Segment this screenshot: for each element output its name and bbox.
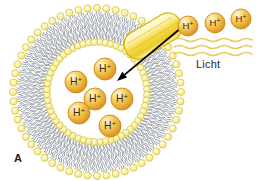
lipid-head-outer: [175, 107, 182, 114]
lipid-head-outer: [173, 116, 180, 123]
lipid-head-outer: [18, 125, 25, 132]
lipid-head-outer: [121, 168, 128, 175]
proton-inside: H+: [99, 115, 121, 137]
light-label: Licht: [196, 58, 220, 70]
lipid-head-outer: [121, 9, 128, 16]
lipid-head-outer: [84, 172, 91, 179]
lipid-head-outer: [75, 170, 82, 177]
protons-outside-vesicle: H+H+H+: [178, 9, 251, 36]
proton-inside: H+: [94, 58, 116, 80]
lipid-head-outer: [112, 7, 119, 14]
lipid-head-outer: [28, 141, 35, 148]
proton-inside: H+: [65, 71, 87, 93]
lipid-head-outer: [84, 5, 91, 12]
lipid-head-outer: [93, 4, 100, 11]
proton-inside: H+: [111, 88, 133, 110]
lipid-head-outer: [173, 61, 180, 68]
lipid-head-outer: [66, 9, 73, 16]
lipid-head-outer: [10, 98, 17, 105]
lipid-head-outer: [153, 148, 160, 155]
lipid-head-outer: [175, 70, 182, 77]
lipid-head-outer: [169, 125, 176, 132]
lipid-head-outer: [9, 88, 16, 95]
light-ray: [174, 39, 252, 42]
lipid-head-outer: [177, 88, 184, 95]
lipid-head-outer: [49, 160, 56, 167]
lipid-head-outer: [146, 154, 153, 161]
lipid-head-outer: [57, 164, 64, 171]
light-ray: [174, 53, 252, 56]
lipid-head-outer: [41, 23, 48, 30]
lipid-head-outer: [138, 160, 145, 167]
lipid-head-outer: [34, 29, 41, 36]
lipid-head-outer: [28, 36, 35, 43]
lipid-head-outer: [14, 61, 21, 68]
diagram-canvas: H+H+H+H+H+H+ H+H+H+: [0, 0, 263, 181]
lipid-head-outer: [57, 13, 64, 20]
lipid-head-outer: [66, 168, 73, 175]
lipid-head-outer: [103, 172, 110, 179]
lipid-head-outer: [138, 17, 145, 24]
lipid-head-outer: [10, 79, 17, 86]
lipid-head-outer: [22, 44, 29, 51]
lipid-head-outer: [130, 164, 137, 171]
lipid-head-outer: [112, 170, 119, 177]
light-ray: [174, 46, 252, 49]
lipid-head-outer: [165, 133, 172, 140]
lipid-head-inner: [91, 39, 98, 46]
lipid-head-outer: [12, 70, 19, 77]
lipid-head-outer: [93, 172, 100, 179]
lipid-head-outer: [18, 52, 25, 59]
proton-outside: H+: [178, 16, 198, 36]
figure-root: H+H+H+H+H+H+ H+H+H+ Licht A: [0, 0, 263, 181]
lipid-head-outer: [177, 98, 184, 105]
lipid-head-outer: [130, 13, 137, 20]
panel-label: A: [14, 152, 22, 164]
proton-outside: H+: [231, 9, 251, 29]
proton-outside: H+: [205, 13, 225, 33]
lipid-head-outer: [75, 7, 82, 14]
lipid-head-outer: [14, 116, 21, 123]
lipid-head-outer: [34, 148, 41, 155]
lipid-head-outer: [22, 133, 29, 140]
lipid-head-outer: [159, 141, 166, 148]
lipid-head-outer: [177, 79, 184, 86]
lipid-head-outer: [12, 107, 19, 114]
light-waves: [174, 39, 252, 56]
lipid-head-outer: [49, 17, 56, 24]
lipid-head-outer: [103, 5, 110, 12]
proton-inside: H+: [68, 102, 90, 124]
lipid-head-outer: [41, 154, 48, 161]
